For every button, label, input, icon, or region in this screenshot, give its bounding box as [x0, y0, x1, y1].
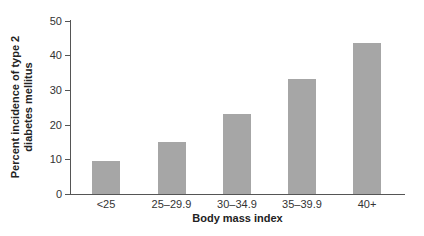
bar-chart: Percent incidence of type 2 diabetes mel…: [0, 0, 424, 236]
y-axis-label-line-1: Percent incidence of type 2: [9, 22, 22, 192]
x-axis: [70, 194, 405, 195]
y-tick-label: 30: [50, 84, 62, 96]
y-tick: [65, 125, 70, 126]
bar: [158, 142, 186, 194]
y-tick-label: 0: [56, 188, 62, 200]
y-tick-label: 20: [50, 119, 62, 131]
y-tick-label: 40: [50, 49, 62, 61]
x-tick-label: 25–29.9: [137, 198, 207, 210]
y-tick: [65, 194, 70, 195]
y-axis-label: Percent incidence of type 2 diabetes mel…: [9, 22, 35, 192]
y-axis: [70, 20, 71, 195]
x-tick-label: 40+: [332, 198, 402, 210]
y-tick: [65, 159, 70, 160]
y-tick-label: 10: [50, 153, 62, 165]
y-tick-label: 50: [50, 15, 62, 27]
y-tick: [65, 90, 70, 91]
y-tick: [65, 55, 70, 56]
bar: [92, 161, 120, 194]
y-axis-label-line-2: diabetes mellitus: [22, 22, 35, 192]
x-tick-label: 30–34.9: [202, 198, 272, 210]
y-tick: [65, 21, 70, 22]
bar: [288, 79, 316, 194]
bar: [223, 114, 251, 194]
bar: [353, 43, 381, 194]
x-tick-label: 35–39.9: [267, 198, 337, 210]
x-axis-label: Body mass index: [70, 212, 405, 224]
x-tick-label: <25: [71, 198, 141, 210]
